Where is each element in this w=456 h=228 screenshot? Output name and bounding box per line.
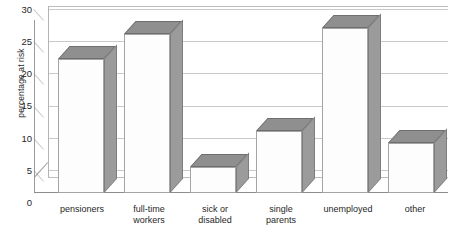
bar-single-parents [256, 131, 302, 193]
x-label-line2: disabled [178, 215, 252, 226]
bar-front-face [190, 167, 236, 193]
bar-full-time-workers [124, 34, 170, 193]
bar-side-face [302, 117, 315, 193]
x-label-pensioners: pensioners [44, 204, 120, 215]
y-tick-label: 15 [10, 101, 32, 111]
x-label-sick-or-disabled: sick or disabled [178, 204, 252, 225]
bar-front-face [388, 143, 434, 193]
bar-pensioners [58, 59, 104, 193]
x-axis-category-labels: pensioners full-time workers sick or dis… [34, 204, 448, 228]
bar-front-face [256, 131, 302, 193]
bar-side-face [170, 20, 183, 193]
x-label-line1: single [244, 204, 318, 215]
x-label-line1: unemployed [308, 204, 388, 215]
bar-chart: percentage at risk 30 25 20 15 10 5 0 [0, 0, 456, 228]
bar-side-face [368, 14, 381, 193]
bar-unemployed [322, 28, 368, 193]
bar-other [388, 143, 434, 193]
x-label-full-time-workers: full-time workers [112, 204, 186, 225]
y-tick-label: 25 [10, 37, 32, 47]
y-axis-tick-labels: 30 25 20 15 10 5 0 [8, 0, 32, 228]
bar-sick-or-disabled [190, 167, 236, 193]
y-tick-label: 5 [10, 166, 32, 176]
bar-series [34, 6, 448, 204]
bar-front-face [322, 28, 368, 193]
x-label-other: other [378, 204, 452, 215]
x-label-single-parents: single parents [244, 204, 318, 225]
x-label-unemployed: unemployed [308, 204, 388, 215]
x-label-line2: workers [112, 215, 186, 226]
y-tick-label: 20 [10, 69, 32, 79]
y-tick-label: 0 [10, 198, 32, 208]
plot-area [34, 6, 448, 204]
x-label-line1: pensioners [44, 204, 120, 215]
y-tick-label: 10 [10, 134, 32, 144]
x-label-line2: parents [244, 215, 318, 226]
x-label-line1: full-time [112, 204, 186, 215]
x-label-line1: other [378, 204, 452, 215]
bar-side-face [104, 45, 117, 193]
bar-front-face [124, 34, 170, 193]
x-label-line1: sick or [178, 204, 252, 215]
y-tick-label: 30 [10, 5, 32, 15]
bar-front-face [58, 59, 104, 193]
